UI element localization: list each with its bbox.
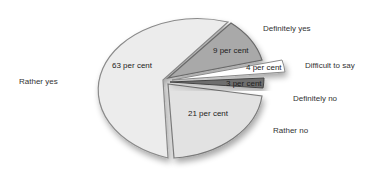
slice-rather-no bbox=[168, 84, 262, 158]
category-label-definitely-yes: Definitely yes bbox=[263, 24, 311, 33]
value-label-4: 4 per cent bbox=[246, 63, 282, 72]
value-label-9: 9 per cent bbox=[213, 46, 249, 55]
value-label-21: 21 per cent bbox=[188, 109, 229, 118]
category-label-definitely-no: Definitely no bbox=[293, 94, 338, 103]
value-label-3: 3 per cent bbox=[226, 79, 262, 88]
category-label-difficult-to-say: Difficult to say bbox=[305, 61, 355, 70]
category-label-rather-no: Rather no bbox=[273, 126, 309, 135]
value-label-63: 63 per cent bbox=[112, 61, 153, 70]
pie-chart: 63 per cent 9 per cent 4 per cent 3 per … bbox=[0, 0, 375, 172]
category-label-rather-yes: Rather yes bbox=[19, 77, 58, 86]
